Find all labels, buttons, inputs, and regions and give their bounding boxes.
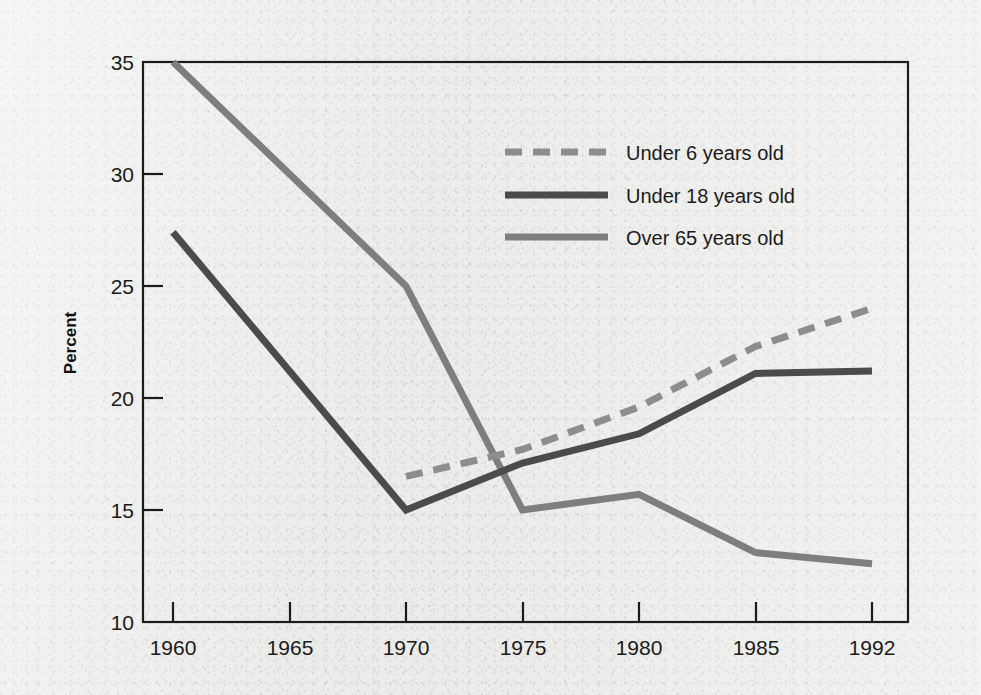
x-axis-labels: 1960 1965 1970 1975 1980 1985 1992 [150,636,896,659]
x-tick-label-1965: 1965 [267,636,314,659]
y-axis-labels: 35 30 25 20 15 10 [111,51,134,634]
y-axis-title: Percent [61,311,80,374]
series-line-under-18 [173,232,872,510]
x-tick-label-1980: 1980 [616,636,663,659]
x-tick-label-1960: 1960 [150,636,197,659]
series-line-over-65 [173,62,872,564]
y-tick-label-15: 15 [111,499,134,522]
x-axis-ticks [173,602,872,622]
series-line-under-6 [406,308,872,476]
y-axis-ticks [143,174,163,510]
legend-label-over-65: Over 65 years old [626,227,784,249]
series-group [173,62,872,564]
x-tick-label-1985: 1985 [733,636,780,659]
y-tick-label-30: 30 [111,163,134,186]
x-tick-label-1992: 1992 [849,636,896,659]
legend: Under 6 years old Under 18 years old Ove… [505,142,795,249]
chart-page: 35 30 25 20 15 10 Percent 1960 1965 1970… [0,0,981,695]
y-tick-label-10: 10 [111,611,134,634]
x-tick-label-1970: 1970 [383,636,430,659]
line-chart: 35 30 25 20 15 10 Percent 1960 1965 1970… [0,0,981,695]
legend-label-under-6: Under 6 years old [626,142,784,164]
y-tick-label-35: 35 [111,51,134,74]
x-tick-label-1975: 1975 [500,636,547,659]
y-tick-label-25: 25 [111,275,134,298]
legend-label-under-18: Under 18 years old [626,185,795,207]
y-tick-label-20: 20 [111,387,134,410]
